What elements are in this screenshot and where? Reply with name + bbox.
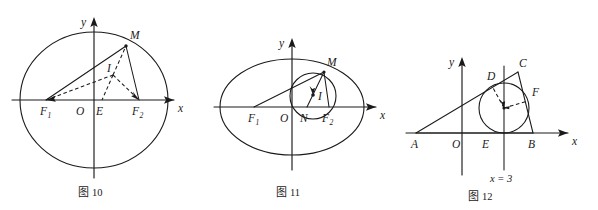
label-axis-x: x	[379, 109, 386, 121]
label-point-i: I	[317, 90, 323, 102]
label-point-b: B	[528, 138, 535, 150]
label-point-f: F	[531, 86, 540, 98]
figure-caption-prefix: 图	[468, 190, 479, 203]
label-point-f2-subscript: 2	[140, 111, 144, 120]
label-point-c: C	[519, 57, 527, 69]
figure-caption-prefix: 图	[78, 186, 89, 199]
figure-caption-number: 11	[290, 187, 300, 198]
segment-f1-i-dashed	[46, 75, 113, 100]
label-point-i: I	[106, 62, 112, 74]
label-point-f1-subscript: 1	[48, 111, 52, 120]
label-point-o: O	[76, 105, 85, 117]
label-point-m: M	[326, 56, 338, 68]
figure-caption-prefix: 图	[276, 186, 287, 199]
label-axis-y: y	[448, 56, 455, 69]
figure-11: M I F 1 O N F 2 x y 图 11	[196, 0, 392, 210]
label-point-f2-subscript: 2	[330, 118, 334, 127]
point-m-dot	[124, 44, 127, 47]
label-point-a: A	[410, 138, 419, 150]
label-vertical-line-equation: x = 3	[489, 173, 512, 184]
label-point-o: O	[452, 138, 461, 150]
label-axis-x: x	[177, 102, 184, 114]
figure-caption-number: 12	[482, 191, 493, 202]
label-axis-y: y	[80, 16, 87, 29]
label-point-e: E	[95, 105, 103, 117]
label-point-n: N	[299, 112, 309, 124]
label-point-m: M	[129, 29, 141, 41]
label-point-d: D	[486, 70, 496, 82]
segment-i-e-dashed	[102, 75, 113, 100]
figure-10: M I F 1 O E F 2 x y 图 10	[0, 0, 196, 210]
point-m-dot	[322, 70, 325, 73]
segment-c-b	[518, 72, 533, 133]
figure-12: D C F A O E B x y x = 3 图 12	[392, 0, 598, 210]
segment-m-f2	[126, 46, 139, 100]
label-axis-x: x	[571, 135, 578, 147]
label-point-e: E	[481, 138, 489, 150]
radius-to-d-dashed	[492, 86, 504, 108]
label-point-f1-subscript: 1	[256, 118, 260, 127]
label-axis-y: y	[278, 37, 285, 50]
incenter-dot	[502, 106, 505, 109]
figure-caption-number: 10	[92, 187, 103, 198]
label-point-o: O	[280, 112, 289, 124]
figure-board: M I F 1 O E F 2 x y 图 10	[0, 0, 598, 210]
